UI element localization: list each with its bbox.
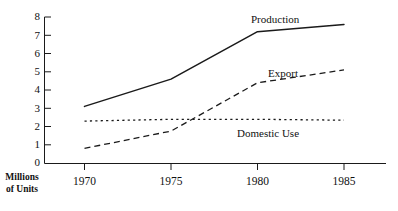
y-tick-label-8: 8: [24, 11, 40, 22]
y-tick-label-0: 0: [24, 157, 40, 168]
y-tick-label-6: 6: [24, 48, 40, 59]
figure-caption-clipped: [0, 202, 398, 211]
series-label-domestic-use: Domestic Use: [237, 128, 299, 139]
x-tick-label-1975: 1975: [141, 176, 201, 187]
series-line-domestic-use: [85, 119, 345, 121]
x-tick-label-1980: 1980: [228, 176, 288, 187]
y-tick-label-4: 4: [24, 84, 40, 95]
x-tick-label-1985: 1985: [314, 176, 374, 187]
line-chart: 8 7 6 5 4 3 2 1 0 1970 1975 1980 1985 Mi…: [0, 0, 398, 211]
series-line-production: [85, 24, 345, 106]
y-tick-label-1: 1: [24, 139, 40, 150]
x-axis-ticks: [85, 164, 345, 171]
y-axis-title-line1: Millions: [0, 172, 44, 183]
y-tick-label-3: 3: [24, 103, 40, 114]
y-tick-label-2: 2: [24, 121, 40, 132]
series-label-export: Export: [268, 68, 298, 79]
y-tick-label-5: 5: [24, 66, 40, 77]
series-line-export: [85, 70, 345, 148]
y-axis-title-line2: of Units: [0, 184, 44, 195]
y-axis-ticks: [45, 17, 52, 145]
y-tick-label-7: 7: [24, 30, 40, 41]
series-label-production: Production: [251, 14, 299, 25]
x-tick-label-1970: 1970: [55, 176, 115, 187]
